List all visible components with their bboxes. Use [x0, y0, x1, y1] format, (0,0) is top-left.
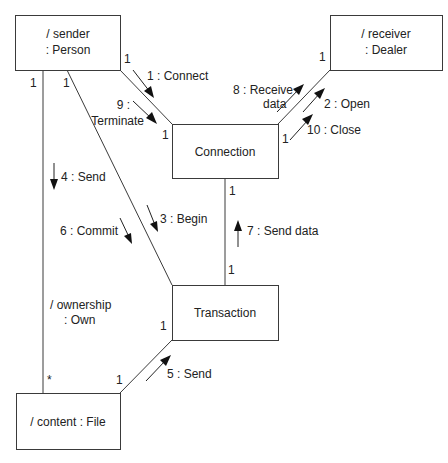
message-6-commit[interactable]: 6 : Commit: [60, 218, 132, 244]
message-9-terminate[interactable]: 9 : Terminate: [91, 98, 157, 128]
association-ownership-type: : Own: [64, 313, 95, 327]
message-5-send[interactable]: 5 : Send: [146, 355, 212, 381]
connection-label: Connection: [195, 145, 256, 159]
arrow-shaft: [290, 120, 308, 140]
message-label-line2: Terminate: [91, 114, 144, 128]
multiplicity-transaction-connection: 1: [228, 263, 235, 277]
arrow-shaft: [120, 218, 129, 237]
arrow-up-icon: [234, 220, 242, 231]
collaboration-diagram: / sender : Person / receiver : Dealer Co…: [0, 0, 448, 463]
message-label-line1: 9 :: [117, 98, 130, 112]
sender-class: : Person: [46, 43, 91, 57]
object-content[interactable]: / content : File: [17, 394, 121, 450]
message-label: 3 : Begin: [160, 212, 207, 226]
content-label: / content : File: [30, 415, 106, 429]
message-label: 2 : Open: [324, 97, 370, 111]
arrow-shaft: [147, 205, 155, 225]
message-2-open[interactable]: 2 : Open: [303, 88, 370, 112]
arrow-down-right-icon: [124, 233, 132, 244]
sender-name: / sender: [46, 27, 89, 41]
multiplicity-sender-transaction: 1: [63, 76, 70, 90]
object-receiver[interactable]: / receiver : Dealer: [331, 16, 443, 71]
multiplicity-connection-receiver: 1: [282, 132, 289, 146]
transaction-label: Transaction: [194, 306, 256, 320]
message-label: 1 : Connect: [147, 69, 209, 83]
receiver-name: / receiver: [361, 27, 410, 41]
message-label: 6 : Commit: [60, 224, 119, 238]
association-ownership-name: / ownership: [50, 298, 112, 312]
multiplicity-connection-sender: 1: [162, 128, 169, 142]
message-3-begin[interactable]: 3 : Begin: [147, 205, 207, 232]
message-label: 10 : Close: [307, 123, 361, 137]
arrow-down-icon: [50, 179, 58, 190]
multiplicity-receiver-connection: 1: [319, 50, 326, 64]
multiplicity-content-own: *: [47, 373, 52, 387]
object-sender[interactable]: / sender : Person: [16, 16, 121, 71]
receiver-class: : Dealer: [365, 43, 407, 57]
message-label-line2: data: [263, 97, 287, 111]
arrow-down-right-icon: [146, 112, 157, 124]
message-label: 4 : Send: [61, 170, 106, 184]
message-label: 5 : Send: [167, 367, 212, 381]
multiplicity-sender-own: 1: [30, 76, 37, 90]
link-content-transaction: [120, 340, 172, 393]
message-4-send[interactable]: 4 : Send: [50, 163, 106, 190]
message-label: 7 : Send data: [247, 224, 319, 238]
object-transaction[interactable]: Transaction: [173, 286, 279, 341]
multiplicity-transaction-content: 1: [160, 319, 167, 333]
message-7-send-data[interactable]: 7 : Send data: [234, 220, 319, 247]
message-10-close[interactable]: 10 : Close: [290, 114, 361, 140]
multiplicity-sender-connection: 1: [124, 52, 131, 66]
object-connection[interactable]: Connection: [173, 125, 279, 179]
message-1-connect[interactable]: 1 : Connect: [133, 69, 209, 98]
message-label-line1: 8 : Receive: [233, 83, 293, 97]
arrow-down-right-icon: [150, 221, 158, 232]
multiplicity-connection-transaction: 1: [229, 184, 236, 198]
multiplicity-content-transaction: 1: [116, 373, 123, 387]
